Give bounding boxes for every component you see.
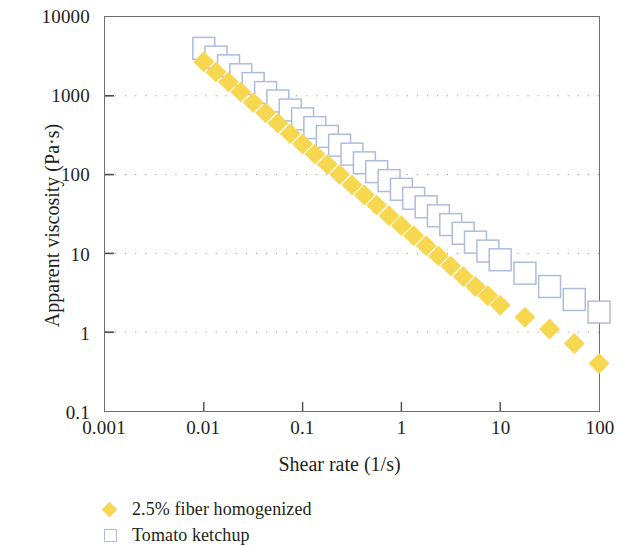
y-axis-tick-label: 10 [71, 244, 90, 263]
legend-marker-diamond [104, 504, 132, 515]
data-point-marker [563, 289, 585, 311]
x-axis-tick-label: 0.01 [186, 418, 220, 437]
legend-item-label: Tomato ketchup [132, 525, 250, 546]
legend-item-label: 2.5% fiber homogenized [132, 499, 312, 520]
x-axis-tick-label: 10 [491, 418, 510, 437]
y-axis-tick-label: 10000 [42, 7, 91, 26]
plot-area [104, 16, 600, 412]
data-point-marker [539, 318, 560, 339]
x-axis-tick-labels: 0.0010.010.1110100 [0, 418, 627, 448]
data-point-marker [514, 307, 535, 328]
legend-item: 2.5% fiber homogenized [104, 497, 312, 521]
data-markers-layer [105, 17, 599, 411]
y-axis-tick-label: 1 [80, 323, 90, 342]
data-point-marker [489, 249, 511, 271]
data-point-marker [588, 301, 610, 323]
x-axis-tick-label: 100 [585, 418, 614, 437]
x-axis-tick-label: 0.001 [82, 418, 126, 437]
figure-scatter-viscosity-vs-shear-rate: 1000010001001010.1 Apparent viscosity (P… [0, 0, 627, 546]
legend-diamond-marker-icon [102, 501, 118, 517]
y-axis-title: Apparent viscosity (Pa·s) [41, 76, 64, 376]
x-axis-tick-label: 0.1 [290, 418, 314, 437]
x-axis-title-text: Shear rate (1/s) [278, 453, 400, 476]
legend-square-marker-icon [104, 529, 117, 542]
legend-item: Tomato ketchup [104, 523, 312, 546]
x-axis-title: Shear rate (1/s) [0, 453, 627, 476]
data-point-marker [589, 353, 610, 374]
data-point-marker [514, 262, 536, 284]
legend-marker-square [104, 529, 132, 542]
data-point-marker [539, 276, 561, 298]
y-axis-tick-label: 100 [61, 165, 90, 184]
x-axis-tick-label: 1 [397, 418, 407, 437]
chart-legend: 2.5% fiber homogenizedTomato ketchup [104, 497, 312, 546]
data-point-marker [564, 333, 585, 354]
